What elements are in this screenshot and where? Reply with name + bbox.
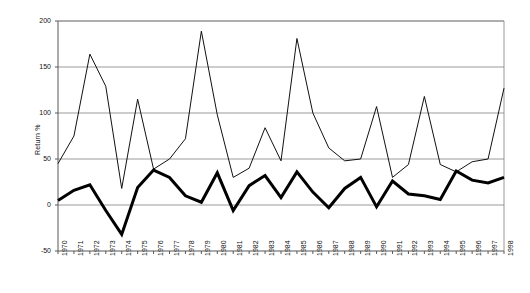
gridlines (58, 21, 504, 205)
plot-frame (58, 21, 504, 251)
series-line-thick-line-series (58, 170, 504, 234)
return-percent-line-chart: Return % -50050100150200 197019711972197… (0, 0, 530, 293)
series-line-thin-line-series (58, 31, 504, 188)
plot-area (0, 0, 530, 293)
data-series-layer (58, 31, 504, 234)
